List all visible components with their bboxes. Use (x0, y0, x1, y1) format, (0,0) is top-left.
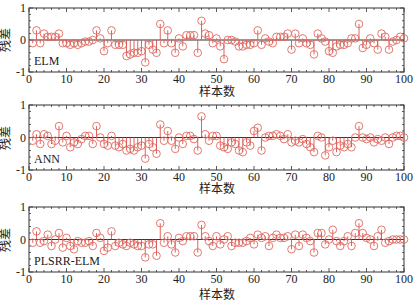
x-tick-label: 20 (98, 272, 110, 286)
x-tick-label: 0 (26, 72, 32, 86)
x-tick-label: 90 (361, 170, 373, 184)
panel-label: ELM (34, 54, 60, 68)
x-axis-label: 样本数 (199, 181, 235, 196)
y-tick-label: 0 (20, 233, 26, 247)
y-tick-label: -1 (16, 65, 26, 79)
y-tick-label: -1 (16, 265, 26, 279)
x-tick-label: 90 (361, 272, 373, 286)
x-tick-label: 60 (248, 170, 260, 184)
x-tick-label: 0 (26, 170, 32, 184)
panel-label: ANN (34, 152, 60, 166)
x-tick-label: 70 (286, 272, 298, 286)
x-tick-label: 10 (61, 272, 73, 286)
x-tick-label: 100 (395, 170, 413, 184)
x-tick-label: 50 (211, 272, 223, 286)
x-tick-label: 70 (286, 72, 298, 86)
x-tick-label: 100 (395, 72, 413, 86)
x-tick-label: 60 (248, 272, 260, 286)
panel-label: PLSRR-ELM (34, 254, 100, 268)
x-tick-label: 30 (136, 72, 148, 86)
x-tick-label: 100 (395, 272, 413, 286)
x-tick-label: 20 (98, 72, 110, 86)
x-tick-label: 40 (173, 72, 185, 86)
y-axis-label: 残差 (0, 28, 13, 52)
x-axis-label: 样本数 (199, 287, 235, 302)
x-axis-label: 样本数 (199, 84, 235, 99)
x-tick-label: 20 (98, 170, 110, 184)
panel-plsrr-elm: 0102030405060708090100-101PLSRR-ELM残差样本数 (0, 200, 413, 302)
x-tick-label: 10 (61, 72, 73, 86)
chart-canvas: 0102030405060708090100-101ELM残差样本数010203… (0, 0, 418, 306)
x-tick-label: 30 (136, 170, 148, 184)
y-tick-label: -1 (16, 163, 26, 177)
x-tick-label: 70 (286, 170, 298, 184)
x-tick-label: 80 (323, 170, 335, 184)
y-tick-label: 0 (20, 131, 26, 145)
x-tick-label: 10 (61, 170, 73, 184)
panel-ann: 0102030405060708090100-101ANN残差样本数 (0, 98, 413, 196)
y-axis-label: 残差 (0, 228, 13, 252)
y-axis-label: 残差 (0, 126, 13, 150)
y-tick-label: 0 (20, 33, 26, 47)
x-tick-label: 40 (173, 272, 185, 286)
x-tick-label: 80 (323, 272, 335, 286)
x-tick-label: 90 (361, 72, 373, 86)
residual-stem-figure: 0102030405060708090100-101ELM残差样本数010203… (0, 0, 418, 306)
x-tick-label: 30 (136, 272, 148, 286)
y-tick-label: 1 (20, 200, 26, 214)
x-tick-label: 0 (26, 272, 32, 286)
y-tick-label: 1 (20, 1, 26, 15)
y-tick-label: 1 (20, 98, 26, 112)
panel-elm: 0102030405060708090100-101ELM残差样本数 (0, 1, 413, 99)
x-tick-label: 60 (248, 72, 260, 86)
x-tick-label: 80 (323, 72, 335, 86)
x-tick-label: 50 (211, 72, 223, 86)
x-tick-label: 40 (173, 170, 185, 184)
